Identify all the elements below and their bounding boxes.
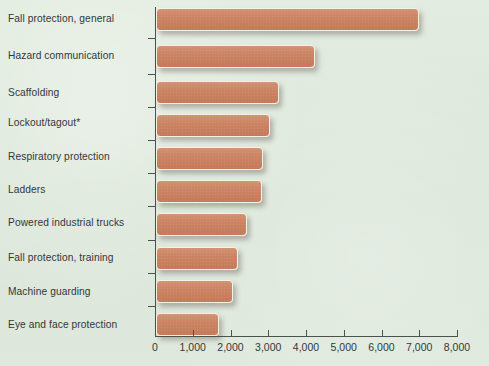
y-axis-tick	[148, 140, 156, 141]
bar	[156, 8, 419, 31]
x-axis-tick-label: 4,000	[293, 342, 319, 353]
category-label: Respiratory protection	[8, 152, 148, 162]
y-axis-tick	[148, 74, 156, 75]
category-label: Machine guarding	[8, 287, 148, 297]
category-label: Eye and face protection	[8, 320, 148, 330]
x-axis-tick	[193, 330, 194, 337]
x-axis-tick-label: 5,000	[331, 342, 357, 353]
bar	[156, 313, 219, 336]
bar	[156, 180, 262, 203]
y-axis-tick	[148, 38, 156, 39]
x-axis-tick	[344, 330, 345, 337]
x-axis-tick	[457, 330, 458, 337]
bar	[156, 213, 247, 236]
category-label: Lockout/tagout*	[8, 118, 148, 128]
bar	[156, 247, 238, 270]
x-axis-tick	[268, 330, 269, 337]
y-axis-tick	[148, 107, 156, 108]
y-axis-tick	[148, 240, 156, 241]
chart-root: Fall protection, general Hazard communic…	[0, 0, 489, 366]
x-axis-tick	[231, 330, 232, 337]
x-axis-tick	[419, 330, 420, 337]
x-axis-tick-label: 8,000	[444, 342, 470, 353]
category-label: Fall protection, training	[8, 253, 148, 263]
bar	[156, 81, 279, 104]
plot-area: Fall protection, general Hazard communic…	[0, 0, 489, 366]
category-label: Ladders	[8, 185, 148, 195]
x-axis-tick-label: 7,000	[406, 342, 432, 353]
bar	[156, 114, 270, 137]
x-axis-tick	[382, 330, 383, 337]
category-label: Scaffolding	[8, 88, 148, 98]
y-axis-tick	[148, 273, 156, 274]
x-axis-tick	[306, 330, 307, 337]
category-label: Hazard communication	[8, 51, 148, 61]
category-label: Fall protection, general	[8, 14, 148, 24]
x-axis-tick	[155, 330, 156, 337]
x-axis-tick-label: 2,000	[217, 342, 243, 353]
category-label: Powered industrial trucks	[8, 218, 148, 228]
y-axis-tick	[148, 306, 156, 307]
x-axis-tick-label: 3,000	[255, 342, 281, 353]
x-axis-tick-label: 6,000	[368, 342, 394, 353]
x-axis-tick-label: 0	[152, 342, 158, 353]
bar	[156, 280, 233, 303]
x-axis-tick-label: 1,000	[180, 342, 206, 353]
y-axis-tick	[148, 206, 156, 207]
bar	[156, 147, 263, 170]
y-axis-tick	[148, 173, 156, 174]
bar	[156, 45, 315, 68]
